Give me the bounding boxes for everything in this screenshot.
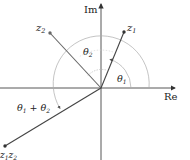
point-z2 xyxy=(48,31,51,34)
label-z1: z1 xyxy=(126,22,136,35)
vector-z2 xyxy=(50,33,101,88)
diagram-canvas: Im Re z1 z2 z1z2 θ1 θ2 θ1 + θ2 xyxy=(0,0,190,160)
label-theta1: θ1 xyxy=(117,73,127,85)
point-z1z2 xyxy=(3,144,6,147)
label-z2: z2 xyxy=(35,22,45,35)
label-z1z2: z1z2 xyxy=(0,150,17,160)
imag-axis-label: Im xyxy=(84,4,98,15)
vector-z1z2 xyxy=(5,88,101,146)
complex-plane-diagram: Im Re z1 z2 z1z2 θ1 θ2 θ1 + θ2 xyxy=(0,0,190,160)
angle-arc-theta2 xyxy=(88,69,106,75)
point-z1 xyxy=(122,30,125,33)
real-axis-label: Re xyxy=(164,91,178,102)
label-theta2: θ2 xyxy=(83,46,93,58)
label-theta-sum: θ1 + θ2 xyxy=(17,102,50,114)
